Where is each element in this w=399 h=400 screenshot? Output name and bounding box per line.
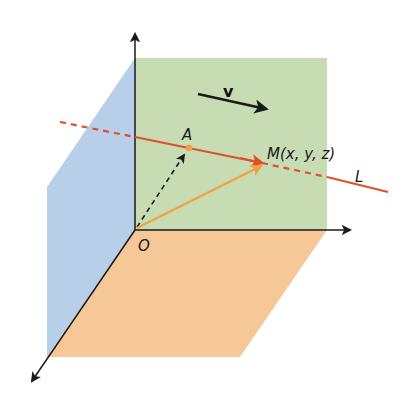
- point-a: [186, 145, 192, 151]
- line-vector-diagram: v A M(x, y, z) L O: [0, 0, 399, 400]
- label-l: L: [355, 168, 363, 186]
- diagram-canvas: v A M(x, y, z) L O: [0, 0, 399, 400]
- label-m: M(x, y, z): [267, 145, 335, 163]
- label-origin: O: [138, 237, 150, 255]
- label-a: A: [181, 126, 192, 144]
- label-v: v: [223, 82, 234, 101]
